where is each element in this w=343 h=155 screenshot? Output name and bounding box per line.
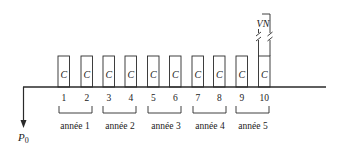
year-bracket [236,106,269,113]
flow-label: C [60,69,67,80]
cash-flow-box: C [148,56,160,87]
initial-payment-label: P0 [17,131,29,145]
year-bracket [59,106,92,113]
arrow-down-icon [21,120,27,128]
terminal-value-label: VN [257,18,271,29]
year-label: année 4 [195,121,225,131]
cash-flow-box: C [103,56,115,87]
period-numbers: 1 2 3 4 5 6 7 8 9 10 [61,93,269,103]
cash-flow-box: C [236,56,248,87]
year-bracket [103,106,136,113]
year-brackets [59,106,269,113]
period-number: 7 [195,93,200,103]
cash-flow-box: C [214,56,226,87]
year-label: année 1 [60,121,90,131]
cash-flow-box: C [125,56,137,87]
year-label: année 5 [238,121,268,131]
period-number: 2 [84,93,89,103]
terminal-value-column: VN [256,14,273,56]
period-number: 4 [128,93,133,103]
flow-label: C [83,69,90,80]
flow-label: C [127,69,134,80]
flow-label: C [238,69,245,80]
period-number: 1 [61,93,66,103]
period-number: 6 [173,93,178,103]
year-bracket [193,106,226,113]
year-labels: année 1 année 2 année 3 année 4 année 5 [60,121,268,131]
flow-label: C [150,69,157,80]
cash-flow-diagram: P0 C C C C C C C [0,0,343,155]
cash-flow-box: C [192,56,204,87]
flow-label: C [261,69,268,80]
period-number: 9 [239,93,244,103]
year-label: année 2 [105,121,135,131]
cash-flow-box: C [58,56,70,87]
period-number: 5 [151,93,156,103]
flow-label: C [194,69,201,80]
cash-flow-box: C [81,56,93,87]
cash-flow-box: C [170,56,182,87]
period-number: 3 [106,93,111,103]
period-number: 10 [260,93,270,103]
period-number: 8 [217,93,222,103]
initial-payment-arrow [21,87,27,128]
flow-label: C [216,69,223,80]
year-label: année 3 [151,121,181,131]
year-bracket [148,106,181,113]
cash-flow-box: C [259,56,271,87]
flow-label: C [105,69,112,80]
flow-label: C [172,69,179,80]
cash-flow-boxes: C C C C C C C C [58,56,270,87]
